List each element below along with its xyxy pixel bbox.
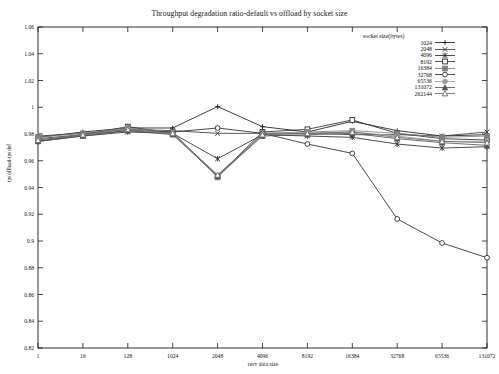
y-tick-label: 0.86 [24, 292, 34, 298]
x-tick-label: 32768 [390, 353, 404, 359]
y-tick-label: 1.06 [24, 24, 34, 30]
x-tick-label: 8192 [302, 353, 313, 359]
x-tick-label: 65536 [435, 353, 449, 359]
y-tick-label: 0.94 [24, 185, 34, 191]
x-tick-label: 16384 [345, 353, 359, 359]
x-tick-label: 4096 [257, 353, 268, 359]
y-tick-label: 0.82 [24, 345, 34, 351]
y-axis-label: tps offload-tps def [6, 128, 12, 198]
x-tick-label: 1024 [167, 353, 178, 359]
y-tick-label: 0.92 [24, 211, 34, 217]
y-tick-label: 1.02 [24, 78, 34, 84]
y-tick-label: 0.98 [24, 131, 34, 137]
x-tick-label: 131072 [479, 353, 496, 359]
legend-item-label: 262144 [402, 91, 432, 98]
chart-container: Throughput degradation ratio-default vs … [0, 0, 499, 374]
legend-item-262144[interactable]: 262144 [402, 91, 456, 98]
x-tick-label: 1 [37, 353, 40, 359]
y-tick-label: 0.84 [24, 318, 34, 324]
x-tick-label: 16 [80, 353, 86, 359]
y-tick-label: 0.96 [24, 158, 34, 164]
y-tick-label: 0.88 [24, 265, 34, 271]
y-tick-label: 1 [31, 104, 34, 110]
x-axis-label: recv data size [38, 361, 488, 367]
y-tick-label: 0.9 [27, 238, 34, 244]
x-tick-label: 2048 [212, 353, 223, 359]
legend-swatch-triangle-open-icon [434, 90, 456, 97]
legend-title: socket size(bytes) [363, 33, 404, 39]
x-tick-label: 128 [124, 353, 133, 359]
y-tick-label: 1.04 [24, 51, 34, 57]
